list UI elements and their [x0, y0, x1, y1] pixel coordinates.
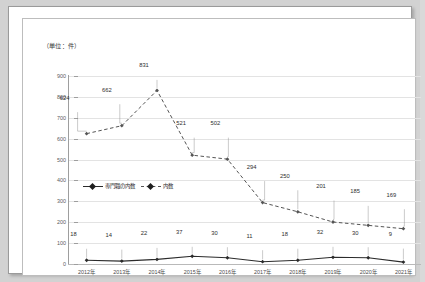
chart-frame: （単位：件） 0100200300400500600700800900 2012…	[22, 18, 416, 276]
x-tick-label: 2015年	[184, 268, 201, 276]
data-label: 14	[106, 232, 112, 238]
data-label: 37	[176, 229, 182, 235]
x-tick-label: 2019年	[325, 268, 342, 276]
y-tick-label: 900	[36, 73, 66, 79]
y-tick-label: 300	[36, 198, 66, 204]
data-label: 831	[139, 62, 149, 68]
data-label: 22	[141, 230, 147, 236]
data-label: 502	[211, 120, 221, 126]
y-tick-label: 0	[36, 261, 66, 267]
x-tick-label: 2021年	[395, 268, 412, 276]
legend-entry-senmonshoku: 専門職の内数	[83, 182, 135, 190]
y-tick-label: 400	[36, 177, 66, 183]
y-axis-ticks: 0100200300400500600700800900	[33, 76, 66, 264]
legend-entry-uchisuu: 内数	[141, 182, 173, 190]
data-label: 250	[280, 173, 290, 179]
data-label: 11	[247, 233, 253, 239]
x-tick-label: 2013年	[113, 268, 130, 276]
x-tick-label: 2018年	[289, 268, 306, 276]
y-tick-mark	[74, 76, 78, 77]
data-label: 9	[389, 231, 392, 237]
y-axis-line	[68, 75, 69, 265]
gridline	[69, 97, 421, 98]
gridline	[69, 76, 421, 77]
legend-label-uchisuu: 内数	[163, 182, 173, 190]
gridline	[69, 243, 421, 244]
plot-area	[69, 76, 421, 264]
gridline	[69, 222, 421, 223]
y-tick-mark	[74, 118, 78, 119]
x-axis-ticks: 2012年2013年2014年2015年2016年2017年2018年2019年…	[69, 268, 421, 282]
y-tick-label: 500	[36, 157, 66, 163]
data-label: 521	[176, 120, 186, 126]
gridline	[69, 201, 421, 202]
y-tick-label: 100	[36, 240, 66, 246]
gridline	[69, 139, 421, 140]
x-tick-label: 2016年	[219, 268, 236, 276]
legend-dashed-key-icon	[141, 183, 161, 189]
data-label: 32	[317, 229, 323, 235]
data-label: 185	[350, 188, 360, 194]
y-tick-mark	[74, 139, 78, 140]
unit-label: （単位：件）	[43, 41, 80, 50]
document-sheet: （単位：件） 0100200300400500600700800900 2012…	[8, 6, 412, 274]
gridline	[69, 118, 421, 119]
data-label: 624	[60, 95, 70, 101]
y-tick-label: 700	[36, 115, 66, 121]
legend-solid-key-icon	[83, 183, 103, 189]
x-axis-line	[68, 264, 421, 265]
data-label: 294	[247, 164, 257, 170]
data-label: 201	[316, 183, 326, 189]
y-tick-label: 200	[36, 219, 66, 225]
y-tick-mark	[74, 264, 78, 265]
x-tick-label: 2017年	[254, 268, 271, 276]
x-tick-label: 2020年	[360, 268, 377, 276]
chart-legend: 専門職の内数 内数	[83, 182, 173, 190]
y-tick-mark	[74, 243, 78, 244]
y-tick-mark	[74, 201, 78, 202]
data-label: 18	[70, 231, 76, 237]
y-tick-label: 600	[36, 136, 66, 142]
data-label: 18	[282, 231, 288, 237]
data-label: 30	[352, 230, 358, 236]
data-label: 30	[211, 230, 217, 236]
legend-label-senmonshoku: 専門職の内数	[105, 182, 135, 190]
y-tick-mark	[74, 180, 78, 181]
data-label: 662	[102, 87, 112, 93]
y-tick-mark	[74, 222, 78, 223]
x-tick-label: 2012年	[78, 268, 95, 276]
data-label: 169	[387, 192, 397, 198]
gridline	[69, 160, 421, 161]
y-tick-mark	[74, 160, 78, 161]
y-tick-mark	[74, 97, 78, 98]
x-tick-label: 2014年	[149, 268, 166, 276]
